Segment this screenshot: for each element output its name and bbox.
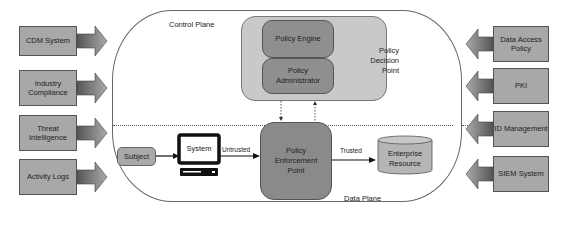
- untrusted-label: Untrusted: [222, 146, 250, 153]
- pep-label: Policy Enforcement Point: [266, 146, 326, 175]
- policy-administrator: Policy Administrator: [262, 58, 334, 94]
- policy-administrator-label: Policy Administrator: [273, 66, 323, 86]
- trusted-label: Trusted: [340, 147, 362, 154]
- subject: Subject: [117, 147, 156, 166]
- system-label: System: [181, 144, 217, 153]
- policy-enforcement-point: Policy Enforcement Point: [260, 122, 332, 200]
- policy-engine: Policy Engine: [262, 20, 334, 58]
- enterprise-resource-label: Enterprise Resource: [380, 149, 430, 169]
- policy-engine-label: Policy Engine: [275, 34, 320, 44]
- pdp-label: Policy Decision Point: [357, 46, 399, 75]
- subject-label: Subject: [124, 152, 149, 161]
